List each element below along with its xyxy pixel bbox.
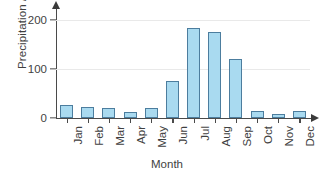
x-tick-label: Nov [283,126,295,146]
plot-area [56,20,310,118]
x-axis-arrow-icon [311,114,319,122]
bar [166,81,179,118]
precipitation-bar-chart: Precipitation / mm 0100200 JanFebMarAprM… [0,0,334,179]
bar [251,111,264,118]
x-tick-mark [194,118,195,123]
x-tick-mark [151,118,152,123]
bar [145,108,158,118]
bar [229,59,242,118]
bar [60,105,73,118]
x-tick-label: Apr [135,126,147,144]
x-tick-label: Sep [241,126,253,146]
x-tick-label: Oct [262,126,274,144]
x-tick-label: Jul [199,126,211,141]
x-tick-mark [172,118,173,123]
x-tick-mark [88,118,89,123]
y-tick-label: 100 [28,63,47,75]
x-tick-label: Aug [220,126,232,146]
bar [102,108,115,118]
y-tick-mark [50,19,56,20]
y-tick-label: 0 [41,112,47,124]
bar [293,111,306,118]
y-tick-mark [50,68,56,69]
bar [187,28,200,118]
x-tick-mark [257,118,258,123]
y-tick-label: 200 [28,14,47,26]
x-tick-label: Dec [304,126,316,146]
x-tick-label: Mar [114,126,126,146]
bar [208,32,221,118]
x-tick-label: Feb [93,126,105,146]
bar [81,107,94,118]
gridline [56,20,310,21]
y-tick-mark [50,117,56,118]
x-axis-title: Month [0,158,334,170]
y-axis-arrow-icon [52,1,60,9]
gridline [56,69,310,70]
y-axis-title: Precipitation / mm [16,0,28,80]
x-tick-label: Jun [177,126,189,145]
x-tick-mark [215,118,216,123]
x-tick-mark [130,118,131,123]
x-tick-label: Jan [72,126,84,145]
x-tick-mark [278,118,279,123]
x-tick-mark [236,118,237,123]
x-tick-label: May [156,126,168,148]
x-tick-mark [67,118,68,123]
x-tick-mark [109,118,110,123]
x-tick-mark [299,118,300,123]
